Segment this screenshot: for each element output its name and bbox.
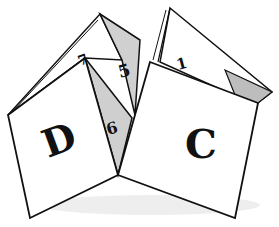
fortune-teller-illustration: D C 7 5 6 1: [0, 0, 279, 227]
letter-c: C: [185, 120, 217, 167]
